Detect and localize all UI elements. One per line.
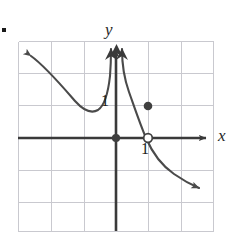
value-at-x-1-point bbox=[144, 102, 153, 111]
origin-point bbox=[112, 134, 120, 142]
x-axis-label: x bbox=[218, 127, 226, 144]
coordinate-plane bbox=[0, 0, 238, 247]
y-axis-label: y bbox=[105, 21, 113, 38]
curve-left-branch bbox=[31, 49, 111, 112]
x-axis-tick-label-1: 1 bbox=[141, 141, 149, 157]
y-axis-tick-label-1: 1 bbox=[101, 93, 109, 109]
curve-right-branch bbox=[122, 49, 199, 188]
plotted-points bbox=[112, 102, 152, 143]
axes bbox=[18, 50, 206, 231]
graph-figure: y x 1 1 bbox=[0, 0, 238, 247]
